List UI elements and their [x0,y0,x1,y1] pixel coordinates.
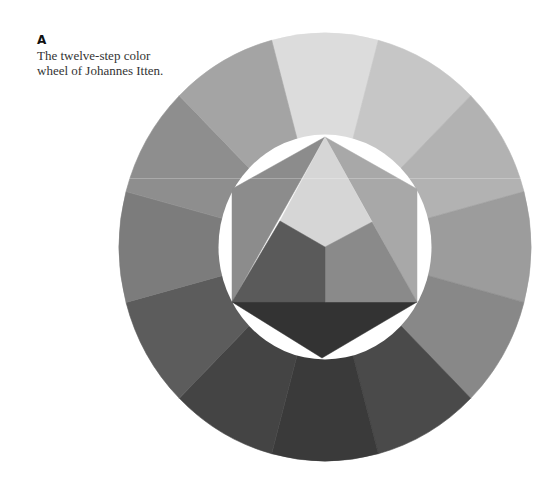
itten-color-wheel [0,0,555,482]
scan-artifact-line [120,178,530,179]
